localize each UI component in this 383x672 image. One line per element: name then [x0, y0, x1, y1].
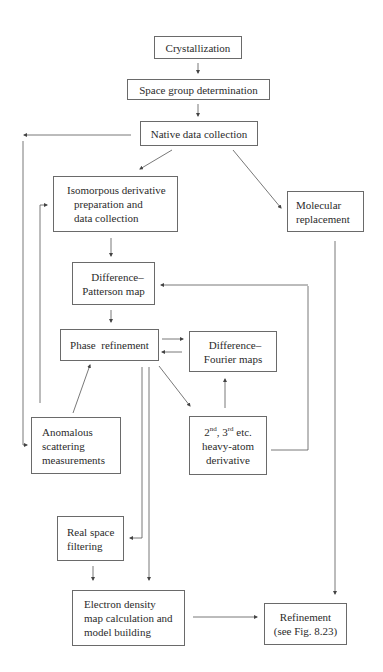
node-label: heavy-atom: [202, 439, 254, 453]
node-label-ordinals: 2nd, 3rd etc.: [204, 425, 252, 439]
node-label: derivative: [206, 453, 250, 467]
node-label: Real space: [67, 525, 114, 539]
node-label: Molecular: [296, 198, 341, 212]
arrow-phase-to-heavyatom: [159, 366, 190, 406]
node-native-data-collection: Native data collection: [140, 121, 258, 146]
crystallography-flowchart: Crystallization Space group determinatio…: [0, 0, 383, 672]
arrow-anomalous-to-phase: [73, 365, 90, 413]
node-label: data collection: [74, 211, 138, 225]
node-label: (see Fig. 8.23): [274, 624, 338, 638]
node-isomorphous-derivative: Isomorpous derivative preparation and da…: [53, 176, 178, 232]
node-label: Phase refinement: [70, 338, 149, 352]
node-label: Difference–: [83, 270, 143, 284]
node-anomalous-scattering: Anomalous scattering measurements: [31, 417, 121, 474]
arrow-native-to-molecular: [233, 150, 281, 208]
node-label: scattering: [42, 439, 85, 453]
node-label: filtering: [67, 539, 102, 553]
node-electron-density-map: Electron density map calculation and mod…: [72, 590, 185, 646]
arrow-native-to-isomorphous: [140, 150, 172, 169]
node-space-group-determination: Space group determination: [127, 79, 270, 100]
node-label: model building: [84, 625, 151, 639]
node-label: Crystallization: [166, 41, 231, 55]
node-crystallization: Crystallization: [154, 36, 242, 59]
node-label: Space group determination: [139, 83, 258, 97]
node-label: Anomalous: [42, 425, 93, 439]
node-label: Difference–: [205, 338, 261, 352]
node-label: map calculation and: [84, 611, 173, 625]
node-difference-fourier-maps: Difference– Fourier maps: [189, 331, 277, 372]
node-label: measurements: [42, 453, 105, 467]
node-phase-refinement: Phase refinement: [60, 329, 159, 361]
node-molecular-replacement: Molecular replacement: [287, 191, 364, 232]
node-refinement: Refinement (see Fig. 8.23): [264, 603, 347, 645]
node-label: Native data collection: [151, 127, 248, 141]
node-label: replacement: [296, 212, 350, 226]
node-label: Patterson map: [82, 284, 145, 298]
node-label: Refinement: [280, 610, 331, 624]
node-real-space-filtering: Real space filtering: [57, 516, 124, 561]
node-label: preparation and: [74, 197, 143, 211]
node-label: Electron density: [84, 597, 156, 611]
arrow-native-to-anomalous: [23, 141, 27, 445]
node-label: Fourier maps: [204, 352, 262, 366]
node-heavy-atom-derivative: 2nd, 3rd etc. heavy-atom derivative: [189, 416, 267, 475]
arrow-phase-to-realspace: [130, 367, 142, 538]
node-difference-patterson-map: Difference– Patterson map: [72, 262, 155, 305]
arrow-anomalous-to-isomorphous: [40, 205, 47, 403]
node-label: Isomorpous derivative: [67, 183, 166, 197]
